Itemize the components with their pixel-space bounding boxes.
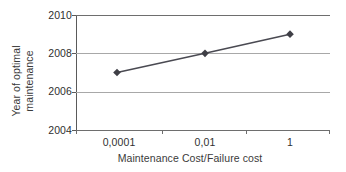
x-tick-mark-start [76, 130, 77, 134]
x-tick-mark-2 [246, 130, 247, 134]
y-tick-label-2010: 2010 [40, 9, 72, 21]
data-point-marker-2 [201, 50, 209, 58]
x-axis-title: Maintenance Cost/Failure cost [0, 152, 346, 164]
plot-area [76, 15, 330, 130]
data-point-marker-3 [286, 30, 294, 38]
x-tick-label-1: 0,0001 [103, 136, 136, 148]
x-tick-label-3: 1 [287, 136, 293, 148]
series-markers [113, 30, 294, 76]
data-point-marker-1 [113, 69, 121, 77]
x-tick-mark-1 [162, 130, 163, 134]
y-axis-title: Year of optimal maintenance [6, 16, 40, 146]
y-axis-tick-labels: 2010 2008 2006 2004 [40, 0, 72, 172]
x-tick-mark-end [329, 130, 330, 134]
y-axis-title-line-1: Year of optimal [10, 45, 23, 116]
y-tick-label-2006: 2006 [40, 85, 72, 97]
x-axis-title-text: Maintenance Cost/Failure cost [84, 152, 263, 164]
x-tick-label-2: 0,01 [195, 136, 216, 148]
y-axis-title-line-2: maintenance [23, 50, 36, 111]
y-tick-label-2008: 2008 [40, 47, 72, 59]
gridline-2004-baseline [76, 130, 330, 131]
x-axis-tick-labels: 0,0001 0,01 1 [76, 136, 330, 150]
series-plot [76, 15, 330, 130]
chart-container: Year of optimal maintenance 2010 2008 20… [0, 0, 346, 172]
y-tick-label-2004: 2004 [40, 124, 72, 136]
